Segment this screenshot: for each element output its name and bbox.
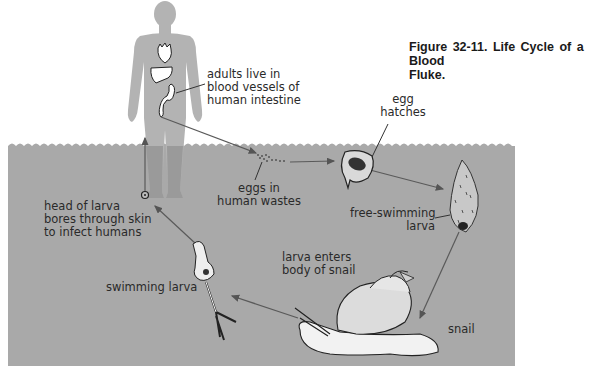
label-line: human wastes (214, 195, 304, 208)
caption-line-1: Figure 32-11. Life Cycle of a Blood (409, 40, 615, 68)
caption-line-2: Fluke. (409, 68, 615, 82)
water-region (8, 144, 515, 367)
figure-caption: Figure 32-11. Life Cycle of a Blood Fluk… (409, 40, 615, 82)
label-snail: snail (448, 323, 475, 336)
entry-point-icon (142, 192, 149, 199)
label-head-of-larva: head of larva bores through skin to infe… (44, 200, 152, 239)
label-eggs-in-wastes: eggs in human wastes (214, 182, 304, 208)
label-adults: adults live in blood vessels of human in… (207, 68, 301, 107)
label-larva-enters-snail: larva enters body of snail (282, 251, 356, 277)
label-egg-hatches: egg hatches (378, 93, 428, 119)
label-line: human intestine (207, 94, 301, 107)
label-line: to infect humans (44, 226, 152, 239)
label-swimming-larva: swimming larva (106, 281, 197, 294)
label-line: hatches (378, 106, 428, 119)
label-line: body of snail (282, 264, 356, 277)
label-free-swimming-larva: free-swimming larva (350, 207, 435, 233)
label-line: larva (350, 220, 435, 233)
